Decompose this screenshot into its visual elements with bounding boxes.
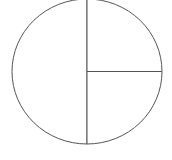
pie-chart xyxy=(0,0,172,160)
pie-slice-left-half xyxy=(12,0,87,144)
pie-slices xyxy=(12,0,162,144)
pie-slice-bottom-right-quarter xyxy=(87,0,162,72)
pie-slice-top-right-quarter xyxy=(87,72,162,145)
